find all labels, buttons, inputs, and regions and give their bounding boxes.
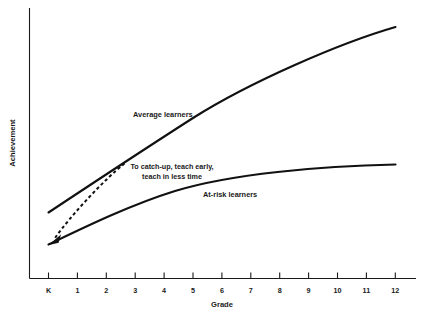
catch-up-annotation: To catch-up, teach early, teach in less …: [130, 162, 213, 181]
tick-label-8: 8: [278, 286, 282, 295]
tick-label-5: 5: [191, 286, 195, 295]
catch-up-arrowhead-icon: [48, 235, 61, 246]
catch-up-annotation-line-2: teach in less time: [142, 172, 202, 181]
chart-container: K 1 2 3 4 5 6 7 8 9 10 11 12 Grade Achie…: [0, 0, 424, 314]
tick-label-9: 9: [307, 286, 311, 295]
at-risk-learners-curve: [49, 165, 396, 245]
tick-label-6: 6: [220, 286, 224, 295]
tick-label-3: 3: [133, 286, 137, 295]
catch-up-annotation-line-1: To catch-up, teach early,: [130, 162, 213, 171]
tick-label-1: 1: [75, 286, 79, 295]
tick-label-7: 7: [249, 286, 253, 295]
at-risk-learners-label: At-risk learners: [203, 190, 257, 199]
tick-label-10: 10: [334, 286, 342, 295]
achievement-vs-grade-chart: K 1 2 3 4 5 6 7 8 9 10 11 12 Grade Achie…: [0, 0, 424, 314]
x-axis-title: Grade: [211, 300, 233, 309]
x-axis-tick-labels: K 1 2 3 4 5 6 7 8 9 10 11 12: [46, 286, 399, 295]
tick-label-12: 12: [391, 286, 399, 295]
tick-label-k: K: [46, 286, 52, 295]
tick-label-11: 11: [363, 286, 371, 295]
tick-label-2: 2: [104, 286, 108, 295]
average-learners-label: Average learners: [133, 110, 193, 119]
x-axis-ticks: [49, 273, 396, 279]
tick-label-4: 4: [162, 286, 166, 295]
y-axis-title: Achievement: [8, 119, 17, 167]
